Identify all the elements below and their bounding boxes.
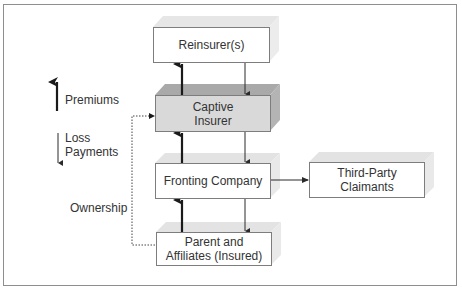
legend-premiums-label: Premiums [65,93,119,107]
node-reinsurer: Reinsurer(s) [153,27,270,63]
node-parent-affiliates: Parent and Affiliates (Insured) [156,232,272,266]
node-parent-line2: Affiliates (Insured) [166,249,263,263]
node-captive-line1: Captive [193,100,234,114]
node-third-party-claimants: Third-Party Claimants [309,162,425,198]
legend-loss-label-line1: Loss [65,131,90,145]
node-fronting-label: Fronting Company [164,174,263,188]
node-captive-insurer: Captive Insurer [155,95,271,132]
node-third-party-line1: Third-Party [337,166,396,180]
ownership-line [132,113,155,245]
node-third-party-line2: Claimants [337,180,396,194]
legend-arrows [57,82,58,163]
node-captive-line2: Insurer [193,114,234,128]
legend-loss-label-line2: Payments [65,145,118,159]
node-parent-line1: Parent and [166,235,263,249]
node-fronting-company: Fronting Company [155,163,271,199]
node-reinsurer-label: Reinsurer(s) [178,38,244,52]
legend-ownership-label: Ownership [70,201,127,215]
